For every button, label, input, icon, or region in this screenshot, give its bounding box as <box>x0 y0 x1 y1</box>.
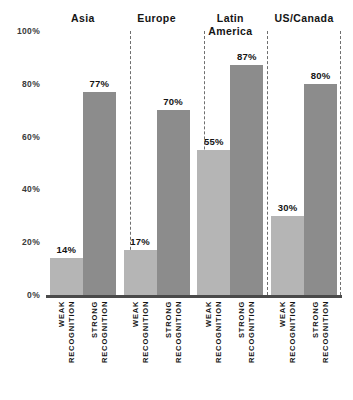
x-tick-group-europe: WEAK RECOGNITION STRONG RECOGNITION <box>120 301 194 396</box>
x-tick-label-weak: WEAK RECOGNITION <box>204 301 223 396</box>
bar-slot-weak: 30% <box>271 31 304 295</box>
x-tick-label-strong: STRONG RECOGNITION <box>90 301 109 396</box>
x-tick-slot-strong: STRONG RECOGNITION <box>83 301 116 396</box>
bar-chart: Asia Europe Latin America US/Canada 100%… <box>0 0 353 400</box>
x-tick-label-weak: WEAK RECOGNITION <box>278 301 297 396</box>
bar-group-europe: 17% 70% <box>120 31 194 295</box>
x-tick-slot-weak: WEAK RECOGNITION <box>50 301 83 396</box>
bar-slot-weak: 17% <box>124 31 157 295</box>
x-tick-slot-weak: WEAK RECOGNITION <box>197 301 230 396</box>
group-header-line: Latin <box>194 12 268 25</box>
bar-slot-strong: 77% <box>83 31 116 295</box>
bar-us-canada-weak[interactable]: 30% <box>271 216 304 295</box>
x-tick-line: WEAK <box>278 301 288 396</box>
bar-group-asia: 14% 77% <box>46 31 120 295</box>
y-tick-100: 100% <box>0 26 40 36</box>
x-tick-line: WEAK <box>57 301 67 396</box>
bar-groups: 14% 77% 17% 70% <box>46 31 341 295</box>
x-tick-line: STRONG <box>164 301 174 396</box>
bar-group-latin-america: 55% 87% <box>194 31 268 295</box>
bar-value-label: 30% <box>278 202 298 213</box>
y-tick-0: 0% <box>0 290 40 300</box>
x-tick-group-us-canada: WEAK RECOGNITION STRONG RECOGNITION <box>267 301 341 396</box>
x-tick-label-weak: WEAK RECOGNITION <box>57 301 76 396</box>
bar-group-us-canada: 30% 80% <box>267 31 341 295</box>
x-tick-label-weak: WEAK RECOGNITION <box>131 301 150 396</box>
bar-asia-strong[interactable]: 77% <box>83 92 116 295</box>
bar-asia-weak[interactable]: 14% <box>50 258 83 295</box>
bar-value-label: 14% <box>57 244 77 255</box>
x-tick-line: RECOGNITION <box>99 301 109 396</box>
bar-value-label: 17% <box>130 236 150 247</box>
x-tick-line: RECOGNITION <box>321 301 331 396</box>
x-tick-slot-strong: STRONG RECOGNITION <box>157 301 190 396</box>
bar-slot-strong: 80% <box>304 31 337 295</box>
x-tick-slot-weak: WEAK RECOGNITION <box>124 301 157 396</box>
y-tick-60: 60% <box>0 132 40 142</box>
y-tick-80: 80% <box>0 79 40 89</box>
x-tick-line: STRONG <box>237 301 247 396</box>
bar-value-label: 80% <box>311 70 331 81</box>
x-tick-group-asia: WEAK RECOGNITION STRONG RECOGNITION <box>46 301 120 396</box>
x-axis-tick-labels: WEAK RECOGNITION STRONG RECOGNITION WEAK… <box>46 301 341 396</box>
x-axis-baseline <box>46 295 342 298</box>
x-tick-label-strong: STRONG RECOGNITION <box>237 301 256 396</box>
x-tick-line: RECOGNITION <box>247 301 257 396</box>
x-tick-line: RECOGNITION <box>173 301 183 396</box>
bar-latin-america-strong[interactable]: 87% <box>230 65 263 295</box>
x-tick-line: WEAK <box>204 301 214 396</box>
group-header-line: Asia <box>46 12 120 25</box>
x-tick-line: RECOGNITION <box>214 301 224 396</box>
x-tick-group-latin-america: WEAK RECOGNITION STRONG RECOGNITION <box>194 301 268 396</box>
bar-slot-weak: 55% <box>197 31 230 295</box>
x-tick-line: STRONG <box>311 301 321 396</box>
y-tick-40: 40% <box>0 184 40 194</box>
group-header-line: US/Canada <box>267 12 341 25</box>
x-tick-line: RECOGNITION <box>288 301 298 396</box>
group-header-line: Europe <box>120 12 194 25</box>
y-tick-20: 20% <box>0 237 40 247</box>
bar-value-label: 87% <box>237 51 257 62</box>
x-tick-slot-strong: STRONG RECOGNITION <box>230 301 263 396</box>
bar-value-label: 70% <box>163 96 183 107</box>
bar-europe-weak[interactable]: 17% <box>124 250 157 295</box>
bar-value-label: 77% <box>90 78 110 89</box>
x-tick-line: WEAK <box>131 301 141 396</box>
x-tick-label-strong: STRONG RECOGNITION <box>164 301 183 396</box>
bar-slot-weak: 14% <box>50 31 83 295</box>
x-tick-slot-weak: WEAK RECOGNITION <box>271 301 304 396</box>
bar-latin-america-weak[interactable]: 55% <box>197 150 230 295</box>
x-tick-line: STRONG <box>90 301 100 396</box>
x-tick-line: RECOGNITION <box>140 301 150 396</box>
bar-slot-strong: 70% <box>157 31 190 295</box>
bar-value-label: 55% <box>204 136 224 147</box>
bar-us-canada-strong[interactable]: 80% <box>304 84 337 295</box>
x-tick-line: RECOGNITION <box>66 301 76 396</box>
x-tick-label-strong: STRONG RECOGNITION <box>311 301 330 396</box>
bar-slot-strong: 87% <box>230 31 263 295</box>
bar-europe-strong[interactable]: 70% <box>157 110 190 295</box>
x-tick-slot-strong: STRONG RECOGNITION <box>304 301 337 396</box>
